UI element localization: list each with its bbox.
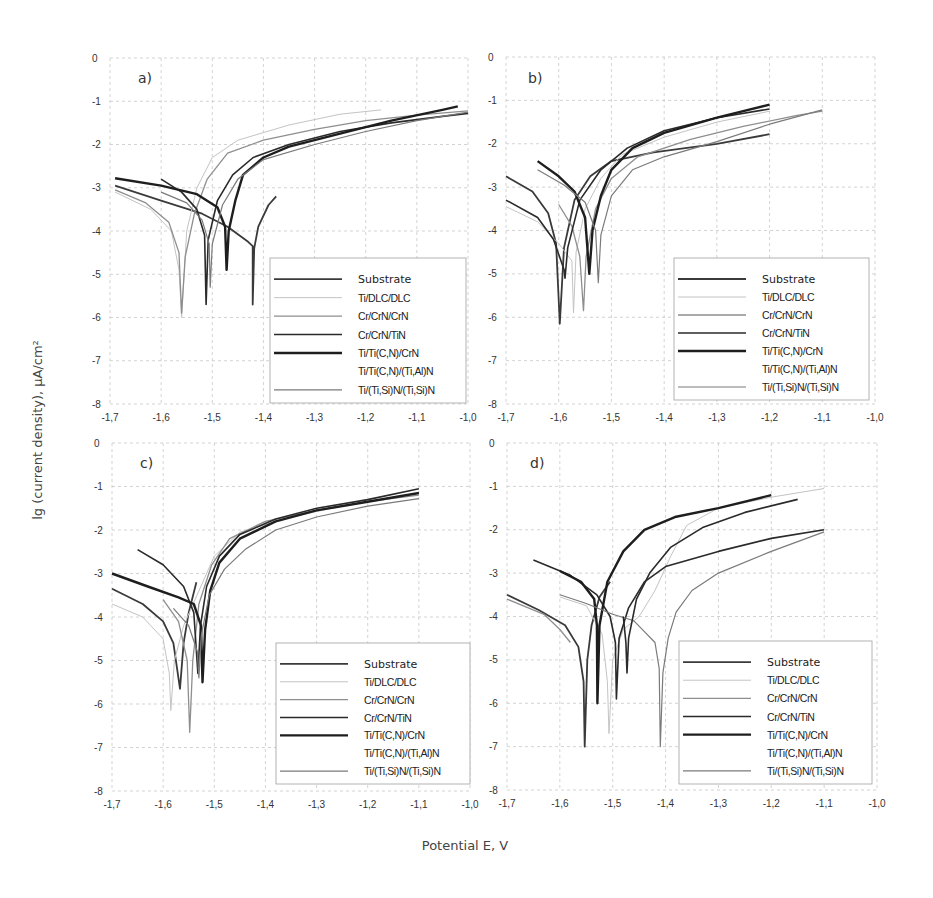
legend-label: Substrate	[364, 658, 418, 671]
y-tick-label: -6	[92, 312, 101, 323]
x-tick-label: -1,0	[461, 799, 479, 810]
y-tick-label: 0	[92, 53, 98, 64]
legend-label: Ti/(Ti,Si)N/(Ti,Si)N	[358, 384, 435, 396]
panel-label: d)	[530, 455, 544, 471]
y-tick-label: -7	[92, 355, 101, 366]
x-tick-label: -1,4	[657, 798, 675, 809]
x-tick-label: -1,0	[868, 798, 886, 809]
chart-panel-a: 0-1-2-3-4-5-6-7-8-1,7-1,6-1,5-1,4-1,3-1,…	[92, 53, 477, 424]
legend-label: Ti/Ti(C,N)/CrN	[364, 729, 425, 741]
y-tick-label: -7	[488, 355, 497, 366]
y-tick-label: -4	[488, 225, 497, 236]
x-tick-label: -1,7	[498, 798, 516, 809]
y-tick-label: -2	[94, 525, 103, 536]
y-tick-label: -8	[92, 399, 101, 410]
legend-label: Cr/CrN/TiN	[364, 712, 412, 724]
legend-label: Ti/DLC/DLC	[767, 674, 820, 686]
x-tick-label: -1,7	[101, 412, 119, 423]
y-tick-label: -8	[489, 785, 498, 796]
legend-label: Ti/(Ti,Si)N/(Ti,Si)N	[364, 765, 441, 777]
legend-label: Substrate	[762, 273, 816, 286]
chart-panel-d: 0-1-2-3-4-5-6-7-8-1,7-1,6-1,5-1,4-1,3-1,…	[489, 438, 886, 810]
x-tick-label: -1,0	[866, 412, 884, 423]
series-line	[112, 582, 196, 689]
x-tick-label: -1,2	[359, 799, 377, 810]
legend-label: Substrate	[767, 656, 821, 669]
legend-label: Ti/Ti(C,N)/CrN	[358, 347, 419, 359]
x-tick-label: -1,5	[206, 799, 224, 810]
y-tick-label: -5	[94, 655, 103, 666]
series-line	[538, 105, 770, 274]
x-tick-label: -1,1	[814, 412, 832, 423]
x-tick-label: -1,3	[708, 412, 726, 423]
y-tick-label: 0	[94, 438, 100, 449]
legend-label: Cr/CrN/CrN	[762, 309, 812, 321]
chart-panels: 0-1-2-3-4-5-6-7-8-1,7-1,6-1,5-1,4-1,3-1,…	[92, 52, 886, 811]
x-axis-title: Potential E, V	[422, 838, 509, 853]
y-tick-label: -3	[489, 568, 498, 579]
y-tick-label: -1	[489, 481, 498, 492]
y-tick-label: -7	[489, 741, 498, 752]
y-tick-label: -3	[92, 182, 101, 193]
x-tick-label: -1,1	[408, 412, 426, 423]
panel-label: a)	[138, 70, 152, 86]
chart-panel-b: 0-1-2-3-4-5-6-7-8-1,7-1,6-1,5-1,4-1,3-1,…	[488, 52, 884, 424]
y-tick-label: -5	[92, 269, 101, 280]
y-tick-label: -2	[488, 138, 497, 149]
x-tick-label: -1,6	[550, 412, 568, 423]
y-tick-label: -1	[92, 96, 101, 107]
legend-label: Cr/CrN/CrN	[767, 692, 817, 704]
x-tick-label: -1,3	[710, 798, 728, 809]
y-tick-label: -6	[94, 699, 103, 710]
x-tick-label: -1,1	[410, 799, 428, 810]
legend-label: Cr/CrN/TiN	[358, 329, 406, 341]
panel-label: b)	[528, 70, 542, 86]
y-tick-label: 0	[488, 52, 494, 63]
legend-label: Ti/DLC/DLC	[762, 291, 815, 303]
y-axis-title: lg (current density), µA/cm²	[30, 340, 45, 520]
y-tick-label: -5	[489, 654, 498, 665]
legend-label: Cr/CrN/CrN	[358, 310, 408, 322]
x-tick-label: -1,4	[656, 412, 674, 423]
x-tick-label: -1,2	[357, 412, 375, 423]
y-tick-label: -3	[488, 182, 497, 193]
legend-label: Substrate	[358, 273, 412, 286]
x-tick-label: -1,4	[255, 412, 273, 423]
chart-panel-c: 0-1-2-3-4-5-6-7-8-1,7-1,6-1,5-1,4-1,3-1,…	[94, 438, 479, 811]
series-line	[507, 599, 570, 642]
x-tick-label: -1,6	[155, 799, 173, 810]
x-tick-label: -1,6	[153, 412, 171, 423]
x-tick-label: -1,2	[763, 798, 781, 809]
x-tick-label: -1,5	[204, 412, 222, 423]
y-tick-label: -6	[488, 312, 497, 323]
y-tick-label: -3	[94, 568, 103, 579]
legend-label: Ti/Ti(C,N)/(Ti,Al)N	[767, 747, 842, 759]
legend-label: Cr/CrN/CrN	[364, 694, 414, 706]
legend-label: Ti/Ti(C,N)/(Ti,Al)N	[364, 747, 439, 759]
x-tick-label: -1,7	[497, 412, 515, 423]
y-tick-label: -4	[94, 612, 103, 623]
legend-label: Ti/DLC/DLC	[358, 292, 411, 304]
legend-label: Ti/Ti(C,N)/(Ti,Al)N	[762, 363, 837, 375]
x-tick-label: -1,3	[308, 799, 326, 810]
x-tick-label: -1,7	[103, 799, 121, 810]
y-tick-label: -1	[488, 95, 497, 106]
legend-label: Ti/Ti(C,N)/CrN	[762, 345, 823, 357]
panel-label: c)	[140, 455, 153, 471]
y-tick-label: -2	[489, 524, 498, 535]
y-tick-label: 0	[489, 438, 495, 449]
y-tick-label: -6	[489, 698, 498, 709]
legend-label: Cr/CrN/TiN	[762, 327, 810, 339]
legend-label: Ti/Ti(C,N)/(Ti,Al)N	[358, 365, 433, 377]
y-tick-label: -4	[92, 226, 101, 237]
x-tick-label: -1,6	[551, 798, 569, 809]
legend-label: Cr/CrN/TiN	[767, 711, 815, 723]
x-tick-label: -1,0	[459, 412, 477, 423]
x-tick-label: -1,1	[816, 798, 834, 809]
x-tick-label: -1,2	[761, 412, 779, 423]
y-tick-label: -7	[94, 742, 103, 753]
x-tick-label: -1,5	[604, 798, 622, 809]
x-tick-label: -1,5	[603, 412, 621, 423]
y-tick-label: -4	[489, 611, 498, 622]
legend-label: Ti/(Ti,Si)N/(Ti,Si)N	[767, 765, 844, 777]
